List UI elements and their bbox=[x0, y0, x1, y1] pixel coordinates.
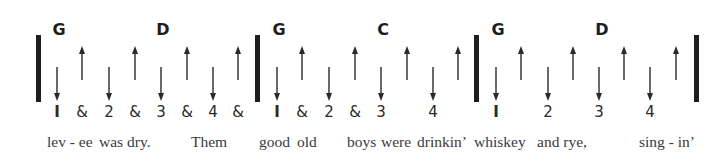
chord-symbol: D bbox=[595, 20, 608, 39]
beat-count: 4 bbox=[428, 103, 438, 121]
lyric-word: sing - in’ bbox=[639, 133, 695, 151]
beat-count: 2 bbox=[543, 103, 553, 121]
beat-count: 3 bbox=[594, 103, 604, 121]
down-strum-arrow-icon bbox=[645, 67, 655, 101]
barline bbox=[255, 35, 260, 102]
chord-symbol: G bbox=[272, 20, 285, 39]
up-strum-arrow-icon bbox=[233, 46, 243, 80]
up-strum-arrow-icon bbox=[453, 46, 463, 80]
down-strum-arrow-icon bbox=[208, 67, 218, 101]
up-strum-arrow-icon bbox=[568, 46, 578, 80]
lyric-word: and rye, bbox=[537, 133, 587, 151]
chord-symbol: D bbox=[156, 20, 169, 39]
beat-count: & bbox=[76, 103, 88, 121]
chord-symbol: G bbox=[52, 20, 65, 39]
barline bbox=[36, 35, 41, 102]
beat-count: 2 bbox=[324, 103, 334, 121]
lyric-word: were bbox=[381, 133, 411, 151]
up-strum-arrow-icon bbox=[77, 46, 87, 80]
down-strum-arrow-icon bbox=[594, 67, 604, 101]
beat-count: & bbox=[232, 103, 244, 121]
beat-count: 2 bbox=[104, 103, 114, 121]
down-strum-arrow-icon bbox=[376, 67, 386, 101]
beat-count: & bbox=[296, 103, 308, 121]
beat-count: 4 bbox=[645, 103, 655, 121]
lyric-word: was dry. bbox=[99, 133, 151, 151]
up-strum-arrow-icon bbox=[297, 46, 307, 80]
up-strum-arrow-icon bbox=[516, 46, 526, 80]
up-strum-arrow-icon bbox=[350, 46, 360, 80]
beat-count: I bbox=[274, 103, 280, 121]
beat-count: & bbox=[181, 103, 193, 121]
beat-count: & bbox=[349, 103, 361, 121]
down-strum-arrow-icon bbox=[156, 67, 166, 101]
down-strum-arrow-icon bbox=[428, 67, 438, 101]
down-strum-arrow-icon bbox=[324, 67, 334, 101]
barline bbox=[474, 35, 479, 102]
beat-count: I bbox=[493, 103, 499, 121]
chord-symbol: C bbox=[377, 20, 389, 39]
down-strum-arrow-icon bbox=[272, 67, 282, 101]
lyric-word: whiskey bbox=[474, 133, 526, 151]
beat-count: 3 bbox=[156, 103, 166, 121]
up-strum-arrow-icon bbox=[619, 46, 629, 80]
up-strum-arrow-icon bbox=[130, 46, 140, 80]
beat-count: I bbox=[54, 103, 60, 121]
beat-count: 4 bbox=[208, 103, 218, 121]
chord-symbol: G bbox=[491, 20, 504, 39]
barline bbox=[694, 35, 699, 102]
lyric-word: lev - ee bbox=[47, 133, 93, 151]
lyric-word: Them bbox=[191, 133, 227, 151]
down-strum-arrow-icon bbox=[52, 67, 62, 101]
down-strum-arrow-icon bbox=[491, 67, 501, 101]
down-strum-arrow-icon bbox=[543, 67, 553, 101]
lyric-word: old bbox=[297, 133, 317, 151]
up-strum-arrow-icon bbox=[402, 46, 412, 80]
lyric-word: good bbox=[259, 133, 290, 151]
beat-count: & bbox=[129, 103, 141, 121]
lyric-word: drinkin’ bbox=[417, 133, 467, 151]
beat-count: 3 bbox=[376, 103, 386, 121]
lyric-word: boys bbox=[347, 133, 376, 151]
down-strum-arrow-icon bbox=[104, 67, 114, 101]
up-strum-arrow-icon bbox=[671, 46, 681, 80]
up-strum-arrow-icon bbox=[182, 46, 192, 80]
